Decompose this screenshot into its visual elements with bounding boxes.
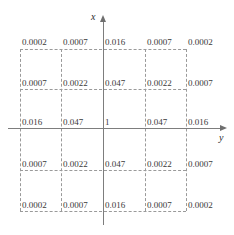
grid-value-r2c5: 0.0007	[188, 79, 213, 88]
grid-value-r2c2: 0.0022	[63, 79, 88, 88]
figure-canvas: x y 0.0002 0.0007 0.016 0.0007 0.0002 0.…	[0, 0, 234, 235]
grid-value-r2c4: 0.0022	[147, 79, 172, 88]
grid-value-r5c3: 0.016	[105, 201, 125, 210]
y-axis-line	[8, 128, 220, 129]
y-axis-arrowhead	[220, 125, 227, 131]
gridline-vertical-2	[61, 49, 62, 211]
grid-value-r5c2: 0.0007	[63, 201, 88, 210]
grid-value-r4c2: 0.0022	[63, 160, 88, 169]
x-axis-arrowhead	[100, 15, 106, 22]
y-axis-label: y	[219, 133, 223, 143]
grid-value-r4c5: 0.0007	[188, 160, 213, 169]
grid-value-r1c5: 0.0002	[188, 38, 213, 47]
grid-value-r1c4: 0.0007	[147, 38, 172, 47]
x-axis-label: x	[91, 12, 95, 22]
grid-value-r3c1: 0.016	[22, 118, 42, 127]
gridline-vertical-1	[20, 49, 21, 211]
grid-value-r3c4: 0.047	[147, 118, 167, 127]
grid-value-r3c5: 0.016	[188, 118, 208, 127]
grid-value-r5c5: 0.0002	[188, 201, 213, 210]
grid-value-r4c1: 0.0007	[22, 160, 47, 169]
grid-value-r5c1: 0.0002	[22, 201, 47, 210]
grid-value-r3c2: 0.047	[63, 118, 83, 127]
grid-value-r5c4: 0.0007	[147, 201, 172, 210]
grid-value-r1c1: 0.0002	[22, 38, 47, 47]
grid-value-r1c2: 0.0007	[63, 38, 88, 47]
gridline-vertical-4	[186, 49, 187, 211]
grid-value-r2c1: 0.0007	[22, 79, 47, 88]
grid-value-r1c3: 0.016	[105, 38, 125, 47]
x-axis-line	[103, 22, 104, 225]
grid-value-r3c3-origin: 1	[105, 118, 110, 127]
gridline-vertical-3	[145, 49, 146, 211]
grid-value-r4c3: 0.047	[105, 160, 125, 169]
grid-value-r4c4: 0.0022	[147, 160, 172, 169]
grid-value-r2c3: 0.047	[105, 79, 125, 88]
